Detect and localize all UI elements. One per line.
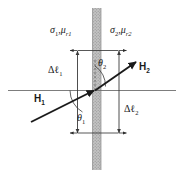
delta-l2-symbol: Δℓ <box>124 103 135 114</box>
h2-subscript: 2 <box>146 67 150 74</box>
h1-label: H1 <box>34 94 45 107</box>
theta2-label: θ2 <box>98 58 106 71</box>
mu-1-subscript: r1 <box>66 30 72 37</box>
medium-1-properties-label: σ1,μr1 <box>50 25 72 38</box>
delta-l1-symbol: Δℓ <box>48 64 59 75</box>
theta2-subscript: 2 <box>103 63 106 70</box>
theta1-label: θ1 <box>77 113 85 126</box>
mu-2-subscript: r2 <box>126 30 132 37</box>
theta1-subscript: 1 <box>82 118 85 125</box>
delta-l2-subscript: 2 <box>135 109 138 116</box>
delta-l1-label: Δℓ1 <box>48 65 62 78</box>
h1-subscript: 1 <box>41 99 45 106</box>
delta-l2-label: Δℓ2 <box>124 104 138 117</box>
h2-label: H2 <box>139 62 150 75</box>
delta-l1-subscript: 1 <box>59 70 62 77</box>
refraction-diagram: σ1,μr1 σ2,μr2 Δℓ1 Δℓ2 H1 H2 θ1 θ2 <box>0 0 184 178</box>
medium-2-properties-label: σ2,μr2 <box>110 25 132 38</box>
diagram-canvas <box>0 0 184 178</box>
